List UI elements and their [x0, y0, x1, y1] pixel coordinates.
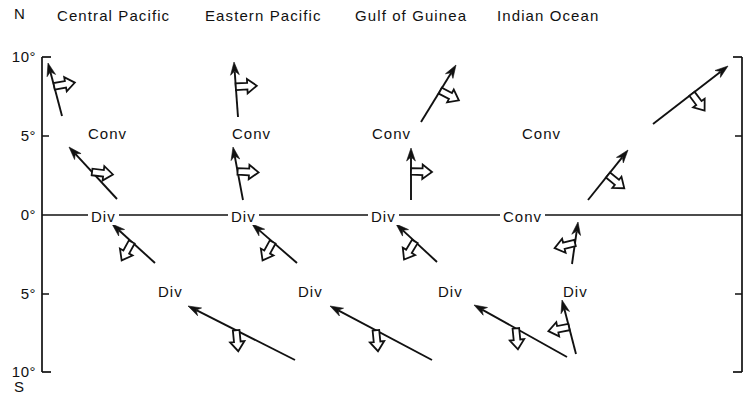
vector-arrowhead [561, 300, 570, 314]
zone-label-equator: Div [88, 208, 119, 225]
vector-shaft [588, 157, 622, 200]
axis-tick-label: 10° [0, 363, 36, 380]
wind-vector [112, 224, 155, 263]
vector-shaft [235, 156, 243, 200]
zone-label-conv-north: Conv [229, 125, 274, 142]
zone-label-equator: Div [368, 208, 399, 225]
zone-label-div-south: Div [295, 283, 326, 300]
divergence-barb-arrow [689, 92, 704, 111]
wind-vector [69, 147, 117, 199]
axis-north-label: N [14, 5, 25, 22]
wind-vector [474, 305, 567, 357]
vector-shaft [338, 310, 432, 360]
vector-arrowhead [231, 62, 240, 75]
vector-shaft [403, 230, 437, 262]
vector-arrowhead [396, 224, 409, 236]
axis-tick-label: 5° [0, 285, 36, 302]
vector-arrowhead [715, 66, 728, 77]
wind-vector [188, 306, 295, 360]
vector-arrowhead [572, 222, 581, 235]
wind-vector [231, 147, 258, 200]
vector-arrowhead [112, 224, 125, 236]
divergence-barb-arrow [120, 240, 135, 260]
vector-field [0, 0, 750, 407]
vector-shaft [564, 309, 576, 354]
divergence-barb-arrow [439, 88, 459, 103]
wind-vector [231, 62, 257, 117]
vector-arrowhead [445, 65, 456, 78]
wind-vector [396, 224, 437, 262]
zone-label-conv-north: Conv [85, 125, 130, 142]
zone-label-conv-north: Conv [519, 125, 564, 142]
vector-arrowhead [330, 306, 344, 316]
vector-shaft [421, 73, 451, 122]
figure-root: Central Pacific Eastern Pacific Gulf of … [0, 0, 750, 407]
divergence-barb-arrow [370, 330, 384, 351]
vector-arrowhead [616, 150, 628, 163]
divergence-barb-arrow [92, 166, 113, 180]
vector-arrowhead [231, 147, 240, 161]
column-header-gulf-of-guinea: Gulf of Guinea [355, 7, 467, 24]
axis-tick-label: 10° [0, 48, 36, 65]
vector-shaft [653, 72, 721, 124]
vector-shaft [119, 230, 155, 263]
divergence-barb-arrow [230, 330, 244, 351]
vector-shaft [75, 154, 117, 199]
column-header-eastern-pacific: Eastern Pacific [205, 7, 322, 24]
wind-vector [548, 300, 576, 354]
wind-vector [653, 66, 728, 124]
wind-vector [330, 306, 432, 360]
vector-arrowhead [188, 306, 202, 316]
zone-label-conv-north: Conv [369, 125, 414, 142]
vector-arrowhead [69, 147, 81, 160]
wind-vector [421, 65, 459, 122]
divergence-barb-arrow [54, 77, 75, 91]
divergence-barb-arrow [237, 165, 258, 179]
axis-tick-label: 5° [0, 127, 36, 144]
zone-label-div-south: Div [435, 283, 466, 300]
wind-vector [47, 63, 75, 116]
column-header-indian-ocean: Indian Ocean [497, 7, 599, 24]
column-header-central-pacific: Central Pacific [57, 7, 170, 24]
vector-shaft [235, 71, 238, 117]
divergence-barb-arrow [261, 240, 276, 260]
divergence-barb-arrow [548, 322, 569, 336]
axis-south-label: S [14, 378, 25, 395]
wind-vector [252, 224, 297, 263]
vector-shaft [482, 310, 567, 357]
vector-shaft [196, 310, 295, 360]
vector-shaft [572, 231, 577, 264]
axis-tick-label: 0° [0, 206, 36, 223]
zone-label-div-south: Div [155, 283, 186, 300]
zone-label-equator: Div [228, 208, 259, 225]
divergence-barb-arrow [555, 239, 576, 253]
vector-arrowhead [47, 63, 56, 77]
divergence-barb-arrow [403, 240, 418, 260]
zone-label-div-south: Div [560, 283, 591, 300]
wind-vector [407, 148, 432, 200]
wind-vector [588, 150, 628, 200]
divergence-barb-arrow [411, 165, 432, 179]
vector-arrowhead [474, 305, 487, 315]
vector-shaft [50, 72, 62, 116]
wind-vector [555, 222, 581, 264]
divergence-barb-arrow [606, 172, 624, 188]
divergence-barb-arrow [236, 79, 257, 93]
vector-shaft [259, 230, 297, 263]
vector-arrowhead [407, 148, 416, 161]
zone-label-equator: Conv [500, 208, 545, 225]
divergence-barb-arrow [510, 328, 524, 349]
vector-arrowhead [252, 224, 265, 236]
